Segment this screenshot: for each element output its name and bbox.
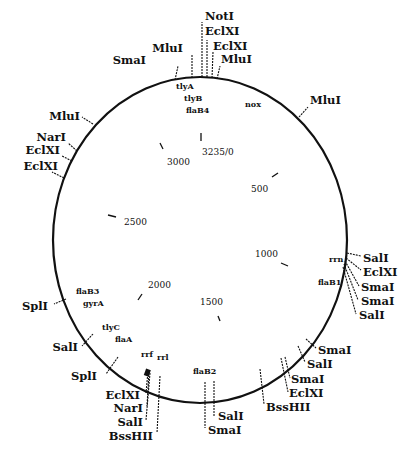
restriction-site-label: MluI bbox=[310, 93, 341, 107]
restriction-site-label: MluI bbox=[221, 52, 252, 66]
restriction-site-label: SalI bbox=[52, 340, 78, 354]
restriction-site-label: BssHII bbox=[266, 400, 310, 414]
restriction-site-label: SplI bbox=[71, 369, 97, 383]
genome-circle bbox=[53, 77, 347, 403]
coordinate-ticks: 3235/050010001500200025003000 bbox=[108, 133, 288, 321]
restriction-site-line bbox=[157, 376, 160, 433]
gene-label: tlyB bbox=[184, 93, 202, 103]
coordinate-label: 1500 bbox=[200, 297, 223, 307]
coordinate-label: 1000 bbox=[255, 249, 278, 259]
restriction-site-label: MluI bbox=[49, 109, 80, 123]
coordinate-label: 2000 bbox=[148, 280, 171, 290]
restriction-sites: SmaIMluINotIEclXIEclXIMluIMluIMluINarIEc… bbox=[22, 9, 398, 443]
restriction-site-label: NotI bbox=[205, 9, 234, 23]
restriction-site-label: EclXI bbox=[363, 265, 397, 279]
restriction-site-label: SalI bbox=[218, 409, 244, 423]
gene-label: tlyC bbox=[102, 322, 120, 332]
coordinate-tick-mark bbox=[138, 294, 142, 300]
coordinate-tick-mark bbox=[108, 215, 116, 217]
gene-label: flaB3 bbox=[76, 286, 100, 296]
gene-label: rrn bbox=[329, 254, 343, 264]
gene-label: rrf bbox=[141, 349, 153, 359]
coordinate-label: 500 bbox=[251, 184, 268, 194]
restriction-site-line bbox=[299, 107, 308, 117]
restriction-site-label: SmaI bbox=[208, 423, 241, 437]
restriction-site-label: EclXI bbox=[289, 386, 323, 400]
gene-label: flaB1 bbox=[318, 277, 341, 287]
restriction-site-line bbox=[285, 357, 290, 378]
restriction-site-line bbox=[346, 258, 361, 270]
restriction-site-label: SalI bbox=[117, 415, 143, 429]
restriction-site-label: EclXI bbox=[106, 388, 140, 402]
restriction-site-label: EclXI bbox=[205, 24, 239, 38]
restriction-site-line bbox=[68, 143, 77, 151]
restriction-site-label: BssHII bbox=[109, 429, 153, 443]
gene-label: rrl bbox=[157, 352, 168, 362]
gene-label: gyrA bbox=[83, 298, 104, 308]
gene-label: flaA bbox=[115, 334, 133, 344]
restriction-map-diagram: 3235/050010001500200025003000 SmaIMluINo… bbox=[0, 0, 406, 449]
coordinate-tick-mark bbox=[160, 143, 163, 149]
coordinate-label: 3235/0 bbox=[202, 147, 234, 157]
restriction-site-label: MluI bbox=[152, 41, 183, 55]
coordinate-tick-mark bbox=[281, 263, 288, 266]
restriction-site-label: SplI bbox=[22, 299, 48, 313]
restriction-site-label: EclXI bbox=[213, 39, 247, 53]
restriction-site-label: SmaI bbox=[291, 372, 324, 386]
coordinate-tick-mark bbox=[272, 173, 278, 177]
gene-label: flaB2 bbox=[193, 366, 216, 376]
restriction-site-label: SmaI bbox=[318, 343, 351, 357]
gene-label: tlyA bbox=[176, 81, 194, 91]
coordinate-label: 2500 bbox=[124, 217, 147, 227]
restriction-site-line bbox=[62, 156, 72, 161]
restriction-site-label: SalI bbox=[307, 357, 333, 371]
restriction-site-label: SmaI bbox=[361, 294, 394, 308]
restriction-site-label: SmaI bbox=[361, 280, 394, 294]
restriction-site-label: EclXI bbox=[26, 143, 60, 157]
restriction-site-label: SmaI bbox=[113, 53, 146, 67]
gene-label: nox bbox=[245, 99, 261, 109]
restriction-site-line bbox=[82, 117, 93, 124]
restriction-site-label: SalI bbox=[363, 251, 389, 265]
restriction-site-label: SalI bbox=[359, 308, 385, 322]
restriction-site-line bbox=[347, 253, 361, 256]
restriction-site-line bbox=[212, 52, 213, 78]
coordinate-tick-mark bbox=[218, 316, 220, 321]
restriction-site-label: EclXI bbox=[24, 159, 58, 173]
coordinate-label: 3000 bbox=[167, 157, 190, 167]
gene-label: flaB4 bbox=[186, 105, 210, 115]
restriction-site-label: NarI bbox=[114, 401, 143, 415]
restriction-site-label: NarI bbox=[37, 130, 66, 144]
